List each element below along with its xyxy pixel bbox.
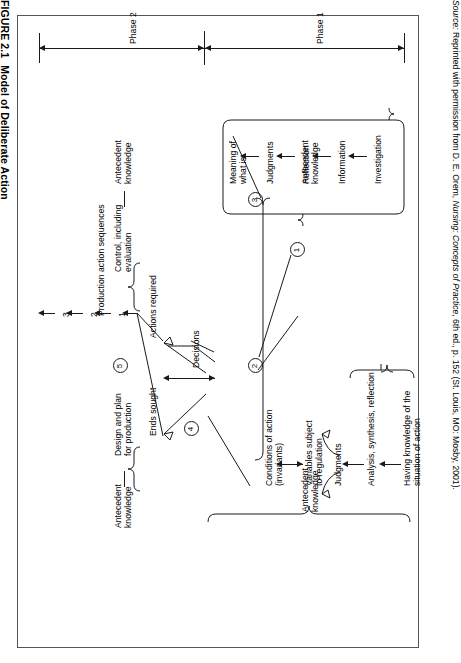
marker1-to-marker2-connector xyxy=(259,255,291,357)
marker1-brace-tip xyxy=(298,214,303,226)
source-prefix: Source: xyxy=(451,0,461,30)
marker3-brace-tip xyxy=(256,198,270,205)
marker3-group-corner xyxy=(255,452,263,460)
control-brace xyxy=(128,263,140,311)
source-text-after: , 6th ed., p. 152 (St. Louis, MO: Mosby,… xyxy=(451,314,461,490)
figure-title: Model of Deliberate Action xyxy=(0,65,11,200)
diagram-canvas: Phase 2 Phase 1 Antecedent knowledge Con… xyxy=(18,16,420,649)
figure-frame: Phase 2 Phase 1 Antecedent knowledge Con… xyxy=(17,15,419,648)
actions-to-decisions-arrowhead xyxy=(164,337,173,345)
marker3-leader xyxy=(233,136,261,198)
bottom-subgroup-brace xyxy=(350,370,414,378)
actions-to-decisions xyxy=(164,343,206,373)
antecedent-knowledge-bottom-brace xyxy=(208,506,410,522)
marker5-to-actions xyxy=(137,313,163,341)
marker4-connector xyxy=(208,416,250,486)
marker2-brace-tip xyxy=(381,365,393,372)
source-book-title: Nursing: Concepts of Practice xyxy=(451,201,461,315)
decisions-junction xyxy=(168,346,215,362)
marker2-leader xyxy=(258,316,298,370)
top-group-box xyxy=(223,120,404,214)
marker5-to-ends xyxy=(137,313,163,436)
connector-overlay xyxy=(18,16,420,649)
figure-number: FIGURE 2.1 xyxy=(0,0,11,58)
ends-to-decisions-arrowhead xyxy=(164,432,173,440)
top-group-brace-tip xyxy=(389,108,394,120)
figure-source-note: Source: Reprinted with permission from D… xyxy=(441,0,461,663)
source-text-before: Reprinted with permission from D. E. Ore… xyxy=(451,30,461,201)
ends-to-decisions xyxy=(164,394,206,434)
judgments-bottom-connectors xyxy=(322,434,340,494)
design-brace xyxy=(128,447,140,491)
